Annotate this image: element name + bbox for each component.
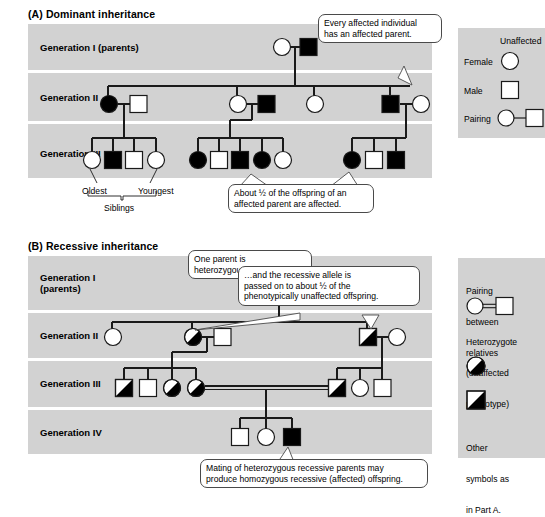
legend-icon-heterozygote-square xyxy=(467,391,485,409)
legend-icon-heterozygote-circle xyxy=(467,357,485,375)
legend-icon-relative-pairing-square xyxy=(496,298,513,315)
legend-icon-relative-pairing-circle xyxy=(467,298,483,314)
